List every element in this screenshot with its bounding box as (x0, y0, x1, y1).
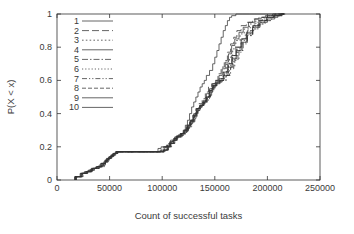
series-line-7 (76, 14, 285, 180)
series-line-5 (76, 14, 285, 180)
x-tick-label: 50000 (97, 183, 122, 193)
y-tick-label: 0.8 (39, 42, 52, 52)
series-line-8 (76, 14, 284, 180)
x-tick-label: 150000 (200, 183, 230, 193)
y-tick-label: 0 (47, 175, 52, 185)
x-axis-title: Count of successful tasks (135, 210, 243, 221)
x-tick-label: 100000 (147, 183, 177, 193)
series-line-10 (76, 14, 285, 180)
series-line-2 (75, 14, 284, 180)
legend-label-6: 6 (74, 64, 79, 74)
series-line-3 (75, 14, 284, 180)
y-axis-title: P(X < x) (5, 80, 16, 115)
legend-label-2: 2 (74, 26, 79, 36)
legend-label-1: 1 (74, 16, 79, 26)
y-tick-label: 0.6 (39, 75, 52, 85)
legend-label-3: 3 (74, 35, 79, 45)
cdf-chart: 05000010000015000020000025000000.20.40.6… (0, 0, 354, 234)
legend-label-4: 4 (74, 45, 79, 55)
y-tick-label: 1 (47, 9, 52, 19)
legend-label-5: 5 (74, 54, 79, 64)
legend-label-9: 9 (74, 93, 79, 103)
series-line-1 (75, 14, 284, 180)
legend-label-7: 7 (74, 74, 79, 84)
series-line-4 (75, 14, 284, 180)
legend-label-10: 10 (69, 102, 79, 112)
chart-canvas: 05000010000015000020000025000000.20.40.6… (0, 0, 354, 234)
y-tick-label: 0.4 (39, 109, 52, 119)
series-line-9 (75, 14, 284, 180)
x-tick-label: 0 (54, 183, 59, 193)
legend-label-8: 8 (74, 83, 79, 93)
y-tick-label: 0.2 (39, 142, 52, 152)
series-line-6 (76, 14, 284, 180)
x-tick-label: 250000 (305, 183, 335, 193)
x-tick-label: 200000 (252, 183, 282, 193)
plot-frame (57, 14, 320, 180)
